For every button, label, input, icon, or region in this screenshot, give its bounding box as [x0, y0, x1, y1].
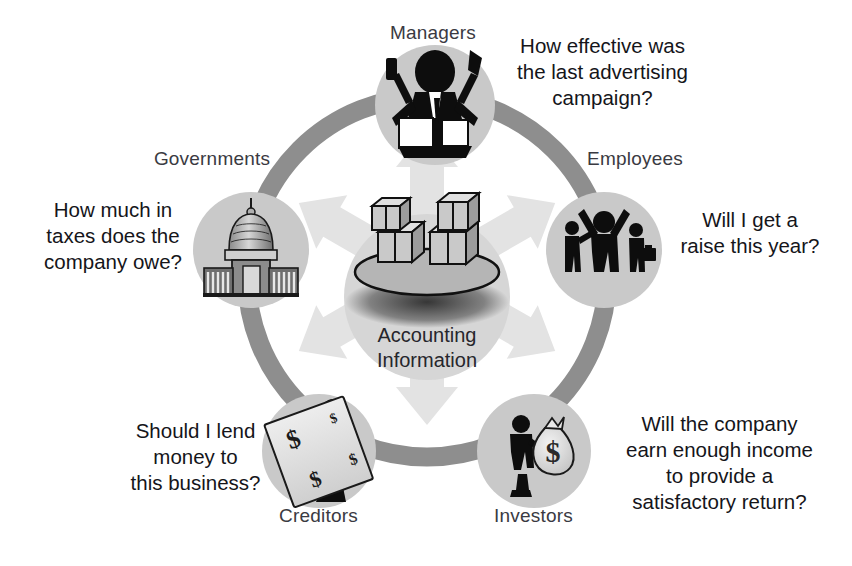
question-creditors: Should I lend money to this business?: [108, 418, 283, 496]
question-employees: Will I get a raise this year?: [660, 207, 840, 259]
question-line: taxes does the: [18, 223, 208, 249]
center-caption: Accounting Information: [327, 323, 527, 373]
center-caption-line: Information: [327, 348, 527, 373]
node-label-employees: Employees: [570, 148, 700, 170]
node-governments[interactable]: [193, 192, 309, 308]
node-label-managers: Managers: [378, 22, 488, 44]
question-line: satisfactory return?: [602, 489, 837, 515]
question-line: How much in: [18, 197, 208, 223]
center-caption-line: Accounting: [327, 323, 527, 348]
svg-text:$: $: [546, 435, 561, 468]
question-line: campaign?: [495, 85, 710, 111]
question-line: Should I lend: [108, 418, 283, 444]
question-managers: How effective was the last advertising c…: [495, 33, 710, 111]
question-line: this business?: [108, 470, 283, 496]
question-governments: How much in taxes does the company owe?: [18, 197, 208, 275]
question-line: Will I get a: [660, 207, 840, 233]
question-line: raise this year?: [660, 233, 840, 259]
question-line: How effective was: [495, 33, 710, 59]
question-line: company owe?: [18, 249, 208, 275]
node-label-governments: Governments: [142, 148, 282, 170]
question-line: to provide a: [602, 463, 837, 489]
node-label-investors: Investors: [477, 505, 590, 527]
node-investors[interactable]: $: [477, 394, 591, 508]
node-managers[interactable]: [375, 45, 495, 165]
question-line: earn enough income: [602, 437, 837, 463]
node-label-creditors: Creditors: [262, 505, 375, 527]
diagram-canvas: $ $ $ $ $: [0, 0, 852, 566]
question-investors: Will the company earn enough income to p…: [602, 411, 837, 515]
question-line: money to: [108, 444, 283, 470]
node-employees[interactable]: [546, 192, 662, 308]
question-line: Will the company: [602, 411, 837, 437]
question-line: the last advertising: [495, 59, 710, 85]
